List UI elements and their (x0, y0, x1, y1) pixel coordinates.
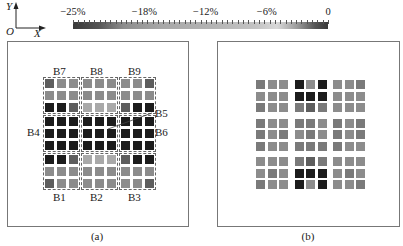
cell (333, 157, 342, 166)
cell (318, 180, 327, 189)
cell (306, 80, 315, 89)
cell (333, 80, 342, 89)
cell (356, 142, 365, 151)
cell (356, 157, 365, 166)
cell (256, 92, 265, 101)
cell (318, 92, 327, 101)
cell (318, 169, 327, 178)
cell (256, 180, 265, 189)
cell (333, 130, 342, 139)
cell (333, 142, 342, 151)
cell (306, 142, 315, 151)
cell (345, 157, 354, 166)
cell (345, 92, 354, 101)
cell (295, 142, 304, 151)
cell (333, 169, 342, 178)
cell (279, 103, 288, 112)
cell (318, 103, 327, 112)
cell (256, 80, 265, 89)
cell (333, 103, 342, 112)
cell (295, 80, 304, 89)
cell (306, 157, 315, 166)
cell (256, 130, 265, 139)
cell (256, 142, 265, 151)
cell (295, 119, 304, 128)
cell (279, 92, 288, 101)
cell (318, 80, 327, 89)
cell (345, 169, 354, 178)
cell (345, 180, 354, 189)
cell (318, 157, 327, 166)
panel-b-grid (0, 0, 403, 246)
cell (306, 103, 315, 112)
cell (295, 103, 304, 112)
cell (279, 119, 288, 128)
cell (306, 130, 315, 139)
cell (256, 157, 265, 166)
cell (333, 180, 342, 189)
cell (268, 119, 277, 128)
cell (268, 180, 277, 189)
cell (318, 119, 327, 128)
cell (306, 180, 315, 189)
cell (256, 103, 265, 112)
cell (356, 119, 365, 128)
cell (279, 142, 288, 151)
cell (345, 142, 354, 151)
cell (295, 130, 304, 139)
cell (356, 92, 365, 101)
cell (268, 157, 277, 166)
cell (306, 169, 315, 178)
cell (268, 169, 277, 178)
cell (345, 103, 354, 112)
cell (345, 80, 354, 89)
cell (256, 119, 265, 128)
cell (279, 180, 288, 189)
cell (279, 157, 288, 166)
cell (333, 92, 342, 101)
cell (256, 169, 265, 178)
cell (356, 130, 365, 139)
cell (318, 130, 327, 139)
cell (356, 80, 365, 89)
cell (279, 169, 288, 178)
cell (268, 80, 277, 89)
cell (268, 130, 277, 139)
cell (345, 130, 354, 139)
cell (356, 180, 365, 189)
panel-b-caption: (b) (302, 230, 315, 242)
cell (295, 157, 304, 166)
cell (295, 180, 304, 189)
cell (268, 142, 277, 151)
cell (295, 169, 304, 178)
cell (356, 103, 365, 112)
cell (306, 92, 315, 101)
cell (318, 142, 327, 151)
cell (279, 130, 288, 139)
cell (345, 119, 354, 128)
cell (268, 92, 277, 101)
cell (333, 119, 342, 128)
cell (279, 80, 288, 89)
cell (356, 169, 365, 178)
cell (295, 92, 304, 101)
cell (306, 119, 315, 128)
cell (268, 103, 277, 112)
